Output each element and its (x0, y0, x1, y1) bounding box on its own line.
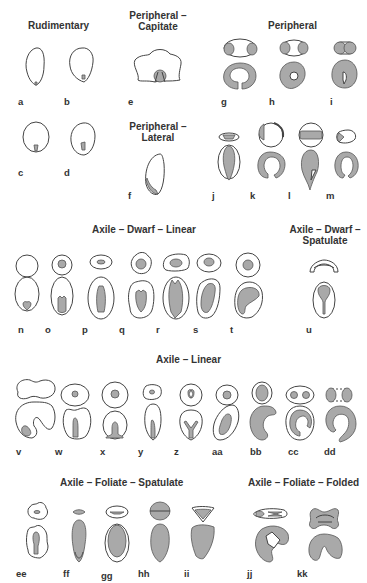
label-d: d (64, 167, 70, 178)
seed-v-icon (16, 380, 55, 438)
seed-g-icon (224, 39, 257, 89)
label-h: h (269, 96, 275, 107)
seed-d-icon (71, 123, 95, 155)
seed-aa-icon (213, 385, 239, 440)
label-ii: ii (184, 568, 189, 579)
seed-h-icon (280, 40, 308, 89)
seed-c-icon (23, 122, 49, 152)
label-j: j (212, 190, 215, 201)
label-f: f (128, 190, 131, 201)
label-c: c (18, 167, 23, 178)
seed-bb-icon (250, 382, 276, 440)
seed-kk-icon (309, 509, 342, 561)
seed-o-icon (51, 255, 73, 315)
label-r: r (156, 324, 160, 335)
label-ff: ff (63, 568, 69, 579)
label-q: q (119, 324, 125, 335)
seed-ee-icon (27, 502, 49, 558)
seed-w-icon (61, 384, 91, 439)
label-t: t (230, 324, 233, 335)
seed-ii-icon (191, 507, 214, 559)
label-o: o (45, 324, 51, 335)
label-bb: bb (250, 446, 262, 457)
label-w: w (55, 446, 62, 457)
label-z: z (174, 446, 179, 457)
seed-r-icon (163, 254, 189, 319)
seed-jj-icon (254, 509, 289, 562)
label-v: v (16, 446, 21, 457)
label-x: x (100, 446, 105, 457)
label-g: g (221, 96, 227, 107)
label-s: s (193, 324, 198, 335)
seed-b-icon (70, 48, 94, 82)
label-kk: kk (297, 568, 308, 579)
label-gg: gg (101, 570, 113, 581)
seed-m-icon (335, 130, 358, 178)
label-aa: aa (212, 446, 223, 457)
seed-i-icon (332, 42, 357, 88)
seed-k-icon (258, 123, 285, 178)
seed-f-icon (146, 154, 165, 195)
seed-u-icon (310, 260, 338, 318)
label-ee: ee (16, 568, 27, 579)
label-y: y (138, 446, 143, 457)
label-p: p (82, 324, 88, 335)
seed-s-icon (197, 254, 221, 318)
seed-p-icon (88, 255, 114, 319)
label-n: n (18, 324, 24, 335)
seed-l-icon (299, 123, 323, 190)
label-jj: jj (247, 568, 252, 579)
seed-x-icon (102, 382, 128, 439)
label-b: b (64, 96, 70, 107)
seed-ff-icon (72, 510, 86, 562)
seed-cc-icon (286, 386, 314, 440)
seed-dd-icon (326, 388, 356, 442)
seed-j-icon (218, 133, 240, 180)
label-dd: dd (324, 446, 336, 457)
seed-diagram (0, 0, 367, 583)
label-e: e (128, 96, 133, 107)
seed-t-icon (235, 253, 263, 318)
seed-y-icon (143, 385, 161, 440)
label-hh: hh (138, 568, 150, 579)
label-i: i (330, 96, 333, 107)
seed-gg-icon (105, 506, 129, 562)
seed-q-icon (129, 252, 154, 318)
label-l: l (288, 190, 291, 201)
label-cc: cc (288, 446, 299, 457)
label-k: k (250, 190, 255, 201)
seed-a-icon (26, 48, 44, 85)
seed-e-icon (134, 50, 181, 83)
label-m: m (326, 190, 334, 201)
label-a: a (18, 96, 23, 107)
seed-hh-icon (150, 502, 170, 562)
seed-n-icon (15, 255, 39, 311)
seed-z-icon (180, 384, 202, 440)
label-u: u (306, 324, 312, 335)
